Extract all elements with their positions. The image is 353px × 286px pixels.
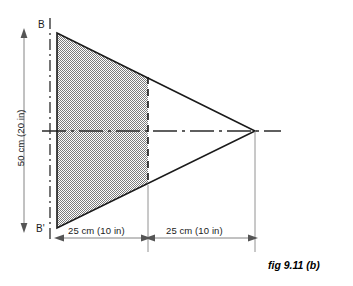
figure-container: B B' 50 cm (20 in) 25 cm (10 in) 25 cm (… bbox=[0, 0, 353, 286]
left-dimension-label: 25 cm (10 in) bbox=[68, 226, 125, 236]
figure-caption: fig 9.11 (b) bbox=[268, 259, 320, 271]
right-dimension-label: 25 cm (10 in) bbox=[166, 226, 223, 236]
right-dimension-arrow-start bbox=[145, 235, 155, 242]
left-dimension-arrow-start bbox=[54, 235, 64, 242]
height-dimension-label: 50 cm (20 in) bbox=[16, 95, 26, 181]
technical-drawing bbox=[0, 0, 353, 286]
datum-label-b-prime: B' bbox=[36, 224, 45, 234]
datum-label-b: B bbox=[38, 20, 45, 30]
right-dimension-arrow-end bbox=[248, 235, 258, 242]
height-arrow-up bbox=[21, 28, 28, 38]
height-arrow-down bbox=[21, 223, 28, 233]
